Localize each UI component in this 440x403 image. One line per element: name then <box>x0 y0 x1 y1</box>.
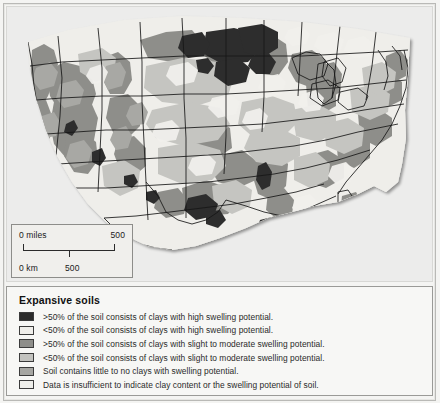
legend-label: >50% of the soil consists of clays with … <box>43 339 325 349</box>
scale-bar-miles-max: 500 <box>111 230 125 240</box>
scale-bar-tick-right <box>114 244 115 251</box>
scale-bar-tick-mid <box>69 250 70 257</box>
scale-bar-tick-left <box>23 244 24 251</box>
legend-swatch-high-gt50 <box>19 312 34 321</box>
legend-item[interactable]: <50% of the soil consists of clays with … <box>19 351 424 365</box>
legend-swatch-high-lt50 <box>19 326 34 335</box>
legend-item[interactable]: >50% of the soil consists of clays with … <box>19 337 424 351</box>
legend-label: >50% of the soil consists of clays with … <box>43 312 273 322</box>
legend-label: Soil contains little to no clays with sw… <box>43 366 239 376</box>
scale-bar-miles-label: 0 miles <box>19 230 47 240</box>
scale-bar-km-mid: 500 <box>65 263 79 273</box>
legend-box: Expansive soils >50% of the soil consist… <box>6 286 433 396</box>
legend-item-list: >50% of the soil consists of clays with … <box>19 310 424 392</box>
legend-item[interactable]: <50% of the soil consists of clays with … <box>19 324 424 338</box>
legend-swatch-mod-gt50 <box>19 339 34 348</box>
legend-swatch-mod-lt50 <box>19 353 34 362</box>
legend-label: <50% of the soil consists of clays with … <box>43 325 273 335</box>
legend-item[interactable]: >50% of the soil consists of clays with … <box>19 310 424 324</box>
legend-label: Data is insufficient to indicate clay co… <box>43 380 319 390</box>
scale-bar: 0 miles 500 0 km 500 <box>11 224 133 278</box>
legend-swatch-nodata <box>19 380 34 389</box>
legend-title: Expansive soils <box>19 294 100 306</box>
legend-swatch-none <box>19 367 34 376</box>
scanned-page: 0 miles 500 0 km 500 Expansive soils >50… <box>0 0 440 403</box>
legend-label: <50% of the soil consists of clays with … <box>43 353 325 363</box>
legend-item[interactable]: Soil contains little to no clays with sw… <box>19 364 424 378</box>
scale-bar-km-label: 0 km <box>19 263 38 273</box>
legend-item[interactable]: Data is insufficient to indicate clay co… <box>19 378 424 392</box>
